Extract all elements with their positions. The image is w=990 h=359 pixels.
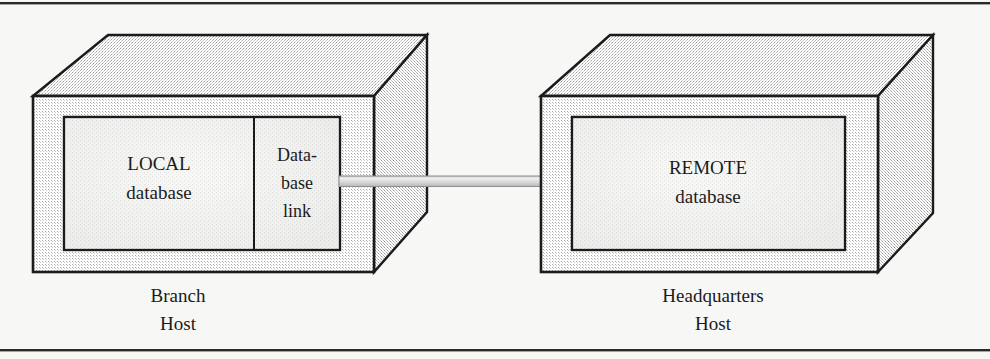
cable-body	[339, 176, 573, 187]
headquarters-host-caption-line1: Headquarters	[662, 285, 763, 306]
diagram-canvas: LOCAL database Data- base link Branch Ho…	[0, 0, 990, 359]
local-database-label-line2: database	[126, 182, 191, 203]
branch-host-caption-line2: Host	[160, 313, 197, 334]
top-rule	[0, 2, 990, 4]
database-link-cable	[339, 176, 573, 187]
remote-database-label-line2: database	[675, 186, 740, 207]
headquarters-host-top-face	[541, 35, 933, 96]
local-database-label-line1: LOCAL	[127, 153, 190, 174]
database-link-label-line1: Data-	[277, 145, 317, 165]
branch-host-caption-line1: Branch	[151, 285, 206, 306]
headquarters-host-caption-line2: Host	[695, 313, 732, 334]
remote-database-label-line1: REMOTE	[669, 157, 747, 178]
database-link-label-line3: link	[283, 201, 311, 221]
headquarters-host-inner-panel-texture	[572, 117, 845, 250]
database-link-label-line2: base	[281, 173, 313, 193]
bottom-rule	[0, 349, 990, 351]
figure-container: LOCAL database Data- base link Branch Ho…	[0, 0, 990, 359]
